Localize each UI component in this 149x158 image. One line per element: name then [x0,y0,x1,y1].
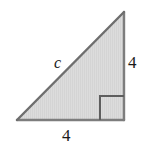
right-triangle-figure: c 4 4 [0,0,149,158]
triangle-graphic [0,0,149,158]
horizontal-leg-label: 4 [62,127,71,144]
hypotenuse-label: c [54,55,61,71]
vertical-leg-label: 4 [128,54,137,71]
